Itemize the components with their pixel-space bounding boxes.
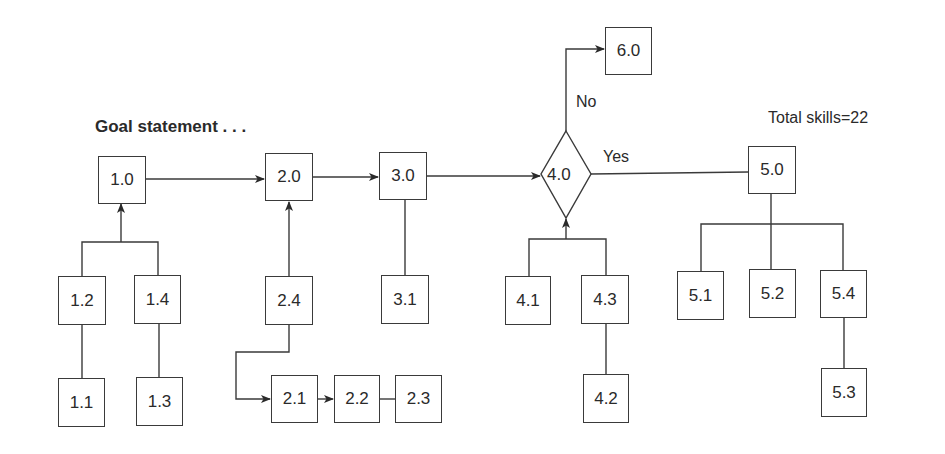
node-3.0: 3.0 bbox=[379, 152, 427, 200]
node-2.0: 2.0 bbox=[265, 153, 313, 201]
node-5.1: 5.1 bbox=[677, 271, 724, 320]
node-2.4: 2.4 bbox=[265, 276, 313, 325]
node-4.3: 4.3 bbox=[581, 275, 629, 324]
node-4.1: 4.1 bbox=[505, 276, 551, 325]
no-label: No bbox=[576, 93, 596, 111]
node-6.0: 6.0 bbox=[605, 27, 652, 75]
node-4.0-label: 4.0 bbox=[547, 165, 571, 185]
node-1.0: 1.0 bbox=[98, 156, 146, 204]
node-1.2: 1.2 bbox=[58, 276, 106, 325]
node-5.0: 5.0 bbox=[748, 146, 796, 194]
yes-label: Yes bbox=[603, 148, 629, 166]
node-1.4: 1.4 bbox=[134, 275, 181, 324]
bracket-5 bbox=[701, 224, 843, 271]
node-2.3: 2.3 bbox=[395, 375, 442, 423]
node-1.1: 1.1 bbox=[58, 378, 105, 427]
bracket-1 bbox=[82, 242, 158, 276]
bracket-4 bbox=[529, 239, 606, 276]
edge-4.0-6.0 bbox=[566, 49, 604, 131]
edge-4.0-5.0 bbox=[591, 172, 748, 174]
node-2.1: 2.1 bbox=[271, 375, 318, 423]
node-3.1: 3.1 bbox=[381, 275, 429, 324]
node-4.2: 4.2 bbox=[583, 374, 629, 423]
total-skills-label: Total skills=22 bbox=[768, 109, 868, 127]
node-2.2: 2.2 bbox=[334, 375, 380, 423]
goal-statement: Goal statement . . . bbox=[95, 117, 246, 137]
node-5.2: 5.2 bbox=[749, 269, 796, 318]
node-1.3: 1.3 bbox=[136, 377, 183, 426]
node-5.3: 5.3 bbox=[821, 368, 867, 417]
node-5.4: 5.4 bbox=[820, 270, 867, 318]
